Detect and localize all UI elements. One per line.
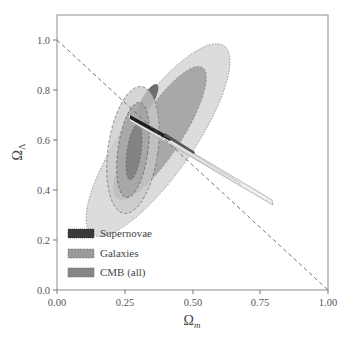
y-tick-label: 0.6 — [37, 135, 50, 146]
x-tick-label: 0.75 — [251, 297, 269, 308]
contour-plot: 0.0 0.2 0.4 0.6 0.8 1.0 ΩΛ 0.00 0.25 0.5… — [0, 0, 355, 338]
y-axis: 0.0 0.2 0.4 0.6 0.8 1.0 ΩΛ — [10, 35, 57, 296]
y-tick-label: 0.0 — [37, 285, 50, 296]
y-tick-label: 0.4 — [37, 185, 51, 196]
x-tick-label: 0.00 — [48, 297, 66, 308]
legend-item-galaxies: Galaxies — [68, 247, 138, 259]
legend-item-supernovae: Supernovae — [68, 227, 152, 239]
y-tick-label: 1.0 — [37, 35, 50, 46]
x-tick-label: 1.00 — [319, 297, 337, 308]
svg-text:CMB (all): CMB (all) — [100, 266, 146, 279]
svg-text:ΩΛ: ΩΛ — [10, 143, 27, 160]
x-axis: 0.00 0.25 0.50 0.75 1.00 Ωm — [48, 290, 337, 330]
y-tick-label: 0.2 — [37, 235, 50, 246]
x-tick-label: 0.50 — [184, 297, 202, 308]
x-tick-label: 0.25 — [116, 297, 134, 308]
y-tick-label: 0.8 — [37, 85, 50, 96]
x-axis-label: Ωm — [184, 313, 201, 330]
legend-item-cmb: CMB (all) — [68, 266, 146, 279]
svg-text:Supernovae: Supernovae — [100, 227, 152, 239]
y-axis-label: ΩΛ — [10, 143, 27, 160]
svg-text:Galaxies: Galaxies — [100, 247, 138, 259]
